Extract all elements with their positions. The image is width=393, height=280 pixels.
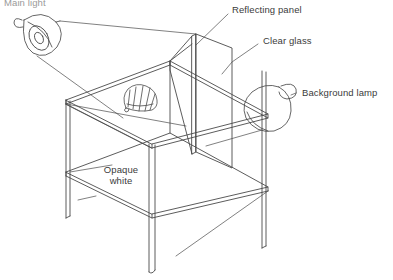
label-clear-glass: Clear glass bbox=[263, 35, 312, 46]
label-main-light: Main light bbox=[4, 0, 46, 8]
leader-lines bbox=[37, 14, 296, 256]
label-opaque-white-line1: Opaque bbox=[104, 164, 138, 175]
diagram-canvas: Main light Reflecting panel Clear glass … bbox=[0, 0, 393, 280]
clear-glass-top bbox=[66, 61, 268, 148]
reflecting-panel bbox=[170, 34, 232, 168]
scallop-shell bbox=[124, 85, 157, 112]
background-lamp bbox=[244, 84, 296, 131]
label-opaque-white: Opaque white bbox=[92, 164, 150, 186]
label-opaque-white-line2: white bbox=[110, 175, 133, 186]
label-reflecting-panel: Reflecting panel bbox=[232, 4, 302, 15]
diagram-drawing bbox=[0, 0, 393, 280]
main-light-lamp bbox=[14, 14, 61, 55]
label-background-lamp: Background lamp bbox=[302, 87, 377, 98]
